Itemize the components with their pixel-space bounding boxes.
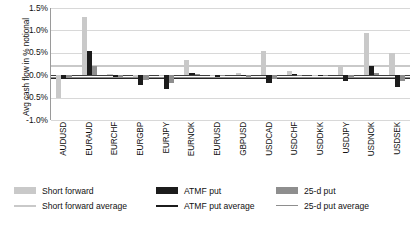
legend-row-bars: Short forwardATMF put25-d put <box>14 184 410 197</box>
x-tick-label: EURJPY <box>161 122 170 153</box>
y-tick-label: 0.0% <box>14 70 48 80</box>
x-tick-label-cell: USDCHF <box>281 120 307 178</box>
x-tick-label-cell: EURGBP <box>127 120 153 178</box>
x-tick-label: USDJPY <box>341 122 350 153</box>
bar <box>374 8 379 120</box>
x-tick-label-cell: USDCAD <box>256 120 282 178</box>
bar <box>92 8 97 120</box>
x-tick-label-cell: EURNOK <box>179 120 205 178</box>
x-tick-label: USDSEK <box>393 122 402 155</box>
x-tick-label-cell: EURCHF <box>101 120 127 178</box>
x-tick-label-cell: USDSEK <box>384 120 410 178</box>
bar-groups <box>51 8 410 120</box>
x-tick-label: GBPUSD <box>238 122 247 156</box>
y-tick-label: 1.0% <box>14 25 48 35</box>
bar-group <box>230 8 256 120</box>
x-tick-label-cell: AUDUSD <box>50 120 76 178</box>
x-tick-label: AUDUSD <box>58 122 67 156</box>
line-swatch-atmf-put-average <box>156 205 178 207</box>
legend-label: Short forward average <box>42 201 127 211</box>
y-tick-label: -0.5% <box>14 92 48 102</box>
bar-group <box>359 8 385 120</box>
bar-group <box>256 8 282 120</box>
x-tick-label: EURGBP <box>136 122 145 156</box>
bar <box>272 8 277 120</box>
plot-area <box>50 8 410 120</box>
y-tick-label: 0.5% <box>14 47 48 57</box>
x-tick-label-cell: EURUSD <box>204 120 230 178</box>
x-tick-label: EURUSD <box>213 122 222 156</box>
y-tick-label: 1.5% <box>14 3 48 13</box>
bar-group <box>307 8 333 120</box>
y-tick-label: -1.0% <box>14 115 48 125</box>
bar <box>400 8 405 120</box>
bar-swatch-25d-put <box>276 187 298 194</box>
x-tick-label: USDCAD <box>264 122 273 156</box>
bar-group <box>154 8 180 120</box>
x-tick-label: USDDKK <box>316 122 325 155</box>
bar <box>297 8 302 120</box>
bar-swatch-atmf-put <box>156 187 178 194</box>
x-tick-label: USDCHF <box>290 122 299 155</box>
legend-item[interactable]: 25-d put <box>276 186 336 196</box>
legend-item[interactable]: 25-d put average <box>276 201 369 211</box>
bar-group <box>51 8 77 120</box>
bar <box>195 8 200 120</box>
line-swatch-25d-put-average <box>276 205 298 206</box>
bar-group <box>77 8 103 120</box>
x-tick-label: EURCHF <box>110 122 119 155</box>
legend-label: ATMF put <box>184 186 221 196</box>
bar-group <box>102 8 128 120</box>
x-tick-label-cell: EURJPY <box>153 120 179 178</box>
line-swatch-short-forward-average <box>14 205 36 207</box>
y-axis-tick-labels: -1.0%-0.5%0.0%0.5%1.0%1.5% <box>10 0 48 122</box>
legend-label: 25-d put average <box>304 201 369 211</box>
x-tick-label: EURNOK <box>187 122 196 156</box>
legend-item[interactable]: Short forward average <box>14 201 156 211</box>
chart-legend: Short forwardATMF put25-d put Short forw… <box>14 184 410 214</box>
bar <box>246 8 251 120</box>
legend-item[interactable]: Short forward <box>14 186 156 196</box>
legend-label: Short forward <box>42 186 94 196</box>
bar-group <box>205 8 231 120</box>
x-tick-label-cell: USDNOK <box>359 120 385 178</box>
bar-group <box>179 8 205 120</box>
bar-group <box>384 8 410 120</box>
bar <box>118 8 123 120</box>
bar <box>143 8 148 120</box>
x-tick-label: USDNOK <box>367 122 376 156</box>
chart-figure: Avg cash flow in % notional -1.0%-0.5%0.… <box>0 0 418 233</box>
legend-label: ATMF put average <box>184 201 255 211</box>
x-axis-tick-labels: AUDUSDEURAUDEURCHFEURGBPEURJPYEURNOKEURU… <box>50 120 410 178</box>
bar-group <box>282 8 308 120</box>
x-tick-label-cell: USDDKK <box>307 120 333 178</box>
legend-item[interactable]: ATMF put average <box>156 201 276 211</box>
x-tick-label-cell: USDJPY <box>333 120 359 178</box>
x-tick-label: EURAUD <box>84 122 93 156</box>
legend-label: 25-d put <box>304 186 336 196</box>
bar <box>323 8 328 120</box>
bar-group <box>333 8 359 120</box>
bar-group <box>128 8 154 120</box>
bar <box>169 8 174 120</box>
bar-swatch-short-forward <box>14 187 36 194</box>
x-tick-label-cell: GBPUSD <box>230 120 256 178</box>
legend-item[interactable]: ATMF put <box>156 186 276 196</box>
bar <box>348 8 353 120</box>
legend-row-averages: Short forward averageATMF put average25-… <box>14 199 410 212</box>
x-tick-label-cell: EURAUD <box>76 120 102 178</box>
bar <box>220 8 225 120</box>
bar <box>66 8 71 120</box>
